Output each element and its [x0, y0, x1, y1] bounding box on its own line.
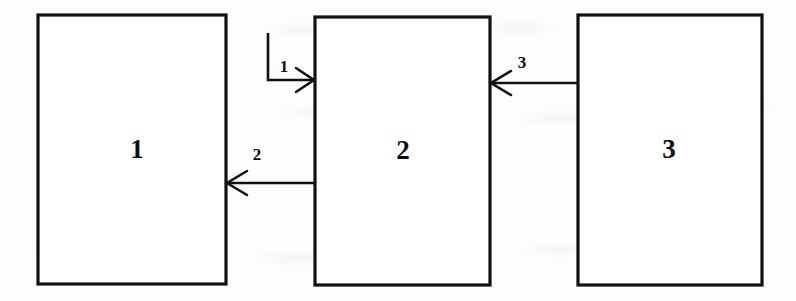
block-label-2: 2	[396, 135, 410, 165]
block-group-3[interactable]: 3	[578, 15, 762, 285]
connector-line-1	[268, 33, 313, 80]
block-label-3: 3	[662, 134, 676, 164]
connector-group-2[interactable]: 2	[227, 145, 316, 195]
connector-group-1[interactable]: 1	[268, 33, 314, 92]
connector-label-3: 3	[518, 53, 527, 72]
connector-label-1: 1	[280, 57, 289, 76]
block-group-1[interactable]: 1	[38, 15, 226, 284]
block-diagram-svg: 1 2 3 1 2 3	[0, 0, 796, 301]
block-group-2[interactable]: 2	[315, 17, 490, 285]
block-diagram-canvas: 1 2 3 1 2 3	[0, 0, 796, 301]
block-label-1: 1	[130, 134, 144, 164]
connector-group-3[interactable]: 3	[491, 53, 579, 95]
connector-label-2: 2	[253, 145, 262, 164]
